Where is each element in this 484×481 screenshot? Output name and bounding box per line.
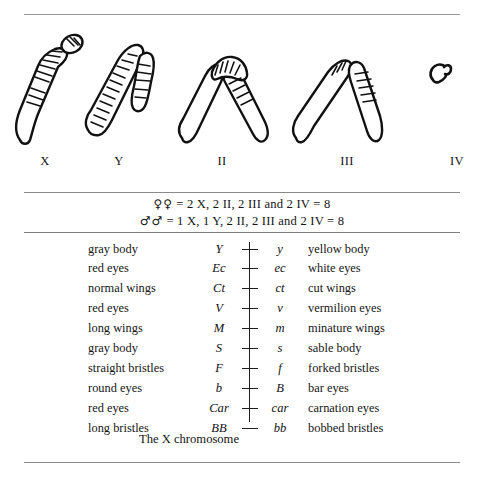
recessive-allele: B — [258, 381, 302, 396]
recessive-phenotype: sable body — [308, 341, 458, 356]
dominant-phenotype: gray body — [88, 341, 206, 356]
rule-top — [24, 14, 460, 15]
table-row: gray body Y y yellow body — [0, 240, 484, 259]
dominant-phenotype: straight bristles — [88, 361, 206, 376]
recessive-phenotype: white eyes — [308, 261, 458, 276]
dominant-allele: S — [196, 341, 242, 356]
dominant-allele: b — [196, 381, 242, 396]
table-row: gray body S s sable body — [0, 339, 484, 358]
table-row: straight bristles F f forked bristles — [0, 359, 484, 378]
chromosome-label-iv: IV — [440, 154, 474, 169]
table-row: red eyes V v vermilion eyes — [0, 299, 484, 318]
chromosome-label-ii: II — [205, 154, 239, 169]
dominant-phenotype: red eyes — [88, 401, 206, 416]
recessive-allele: s — [258, 341, 302, 356]
dominant-allele: V — [196, 301, 242, 316]
chromosome-iii-icon — [288, 46, 396, 146]
dominant-allele: Y — [196, 242, 242, 257]
locus-tick-icon — [242, 288, 258, 289]
formula-female: ♀♀ = 2 X, 2 II, 2 III and 2 IV = 8 — [24, 196, 460, 213]
chromosome-label-row: X Y II III IV — [0, 154, 484, 172]
dominant-phenotype: round eyes — [88, 381, 206, 396]
recessive-allele: car — [258, 401, 302, 416]
rule-above-formulas — [24, 192, 460, 193]
dominant-phenotype: red eyes — [88, 301, 206, 316]
chromosome-label-iii: III — [330, 154, 364, 169]
female-symbol: ♀♀ — [154, 197, 174, 211]
rule-bottom — [24, 462, 460, 463]
locus-tick-icon — [242, 348, 258, 349]
chromosome-label-x: X — [28, 154, 62, 169]
recessive-phenotype: forked bristles — [308, 361, 458, 376]
dominant-phenotype: normal wings — [88, 281, 206, 296]
recessive-phenotype: yellow body — [308, 242, 458, 257]
recessive-allele: y — [258, 242, 302, 257]
dominant-phenotype: long wings — [88, 321, 206, 336]
recessive-allele: m — [258, 321, 302, 336]
locus-tick-icon — [242, 408, 258, 409]
dominant-allele: F — [196, 361, 242, 376]
table-row: red eyes Car car carnation eyes — [0, 399, 484, 418]
chromosome-label-y: Y — [102, 154, 136, 169]
locus-tick-icon — [242, 249, 258, 250]
recessive-allele: f — [258, 361, 302, 376]
dominant-allele: Car — [196, 401, 242, 416]
chromosome-diagram — [0, 18, 484, 146]
recessive-phenotype: cut wings — [308, 281, 458, 296]
x-chromosome-gene-map: gray body Y y yellow body red eyes Ec ec… — [0, 240, 484, 425]
chromosome-ii-icon — [172, 46, 278, 146]
chromosome-y-icon — [82, 34, 170, 144]
table-row: normal wings Ct ct cut wings — [0, 279, 484, 298]
table-row: round eyes b B bar eyes — [0, 379, 484, 398]
recessive-phenotype: vermilion eyes — [308, 301, 458, 316]
figure-page: X Y II III IV ♀♀ = 2 X, 2 II, 2 III and … — [0, 0, 484, 481]
dominant-phenotype: gray body — [88, 242, 206, 257]
chromosome-iv-icon — [424, 58, 458, 92]
formula-female-text: = 2 X, 2 II, 2 III and 2 IV = 8 — [176, 197, 330, 211]
table-row: long wings M m minature wings — [0, 319, 484, 338]
karyotype-formulas: ♀♀ = 2 X, 2 II, 2 III and 2 IV = 8 ♂♂ = … — [24, 196, 460, 230]
recessive-phenotype: carnation eyes — [308, 401, 458, 416]
dominant-allele: Ct — [196, 281, 242, 296]
locus-tick-icon — [242, 328, 258, 329]
formula-male: ♂♂ = 1 X, 1 Y, 2 II, 2 III and 2 IV = 8 — [24, 213, 460, 230]
chromosome-x-icon — [8, 22, 90, 146]
recessive-allele: ct — [258, 281, 302, 296]
dominant-allele: M — [196, 321, 242, 336]
locus-tick-icon — [242, 428, 258, 429]
dominant-phenotype: red eyes — [88, 261, 206, 276]
locus-tick-icon — [242, 368, 258, 369]
recessive-allele: v — [258, 301, 302, 316]
recessive-phenotype: minature wings — [308, 321, 458, 336]
recessive-phenotype: bar eyes — [308, 381, 458, 396]
locus-tick-icon — [242, 388, 258, 389]
locus-tick-icon — [242, 268, 258, 269]
locus-tick-icon — [242, 308, 258, 309]
formula-male-text: = 1 X, 1 Y, 2 II, 2 III and 2 IV = 8 — [166, 214, 344, 228]
table-row: red eyes Ec ec white eyes — [0, 259, 484, 278]
male-symbol: ♂♂ — [140, 214, 164, 228]
figure-caption: The X chromosome — [24, 432, 354, 447]
recessive-allele: ec — [258, 261, 302, 276]
rule-below-formulas — [24, 232, 460, 233]
dominant-allele: Ec — [196, 261, 242, 276]
